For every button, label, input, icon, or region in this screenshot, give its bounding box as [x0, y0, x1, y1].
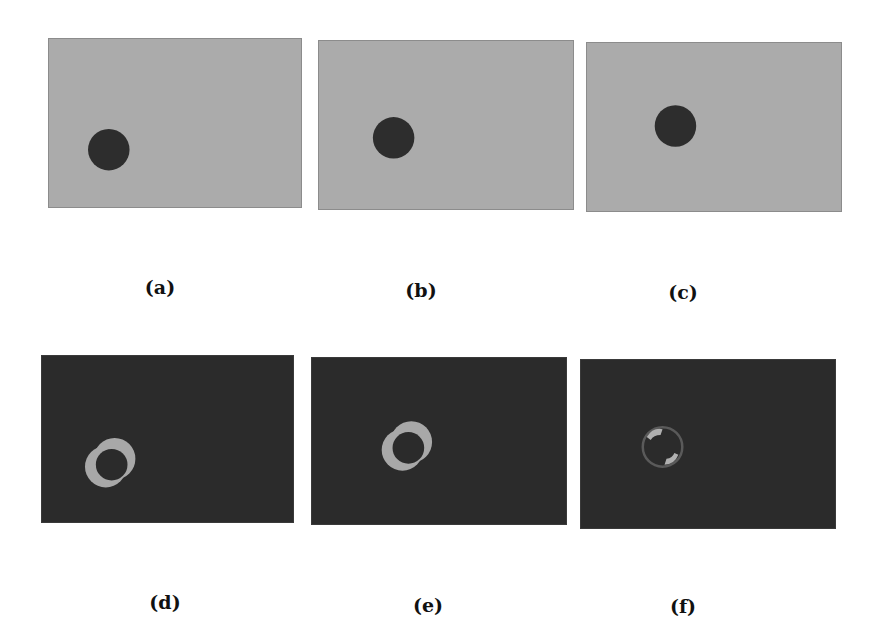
caption-label-e: (e) — [413, 594, 443, 616]
caption-label-d: (d) — [149, 591, 180, 613]
faint-ring-outline — [643, 427, 683, 467]
motion-ring-shape — [43, 356, 293, 522]
difference-panel-f — [580, 359, 836, 529]
frame-image-c — [587, 43, 841, 211]
caption-label-c: (c) — [668, 281, 698, 303]
difference-image-f — [581, 360, 835, 528]
bright-patch-upper-left — [647, 429, 663, 440]
difference-image-e — [312, 358, 566, 524]
motion-ring-shape — [313, 358, 566, 524]
frame-panel-b — [318, 40, 574, 210]
caption-label-b: (b) — [405, 279, 436, 301]
caption-label-a: (a) — [145, 276, 175, 298]
difference-panel-d — [41, 355, 294, 523]
bright-patch-lower-right — [665, 453, 679, 465]
frame-image-a — [49, 39, 301, 207]
moving-object-dot — [373, 117, 415, 159]
moving-object-dot — [655, 105, 697, 147]
frame-panel-c — [586, 42, 842, 212]
caption-label-f: (f) — [670, 595, 696, 617]
frame-image-b — [319, 41, 573, 209]
frame-panel-a — [48, 38, 302, 208]
difference-image-d — [42, 356, 293, 522]
moving-object-dot — [88, 129, 130, 171]
difference-panel-e — [311, 357, 567, 525]
